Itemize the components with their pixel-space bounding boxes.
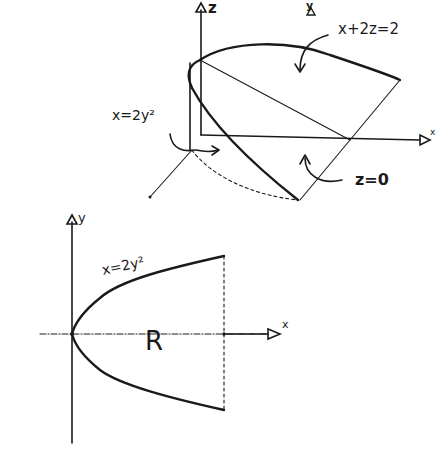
figure-3d: x+2z=2 x=2y² z=0 z y x: [112, 0, 436, 200]
parabola-label: x=2y²: [100, 253, 145, 278]
x-axis-2d-arrow-icon: [268, 329, 280, 339]
front-curve: [192, 88, 298, 200]
y-axis-label-3d: y: [306, 0, 313, 12]
x-axis-label-3d: x: [430, 127, 436, 137]
base-curve: [192, 150, 298, 200]
x-intercept-dot: [222, 332, 226, 336]
diagram-svg: x+2z=2 x=2y² z=0 z y x y: [0, 0, 446, 467]
plane-label: x+2z=2: [338, 20, 399, 38]
y-axis-end-dot: [149, 196, 152, 199]
base-label: z=0: [355, 170, 389, 189]
cylinder-pointer-arrow-2: [196, 150, 218, 152]
x-axis-arrow-icon: [420, 135, 430, 145]
figure-2d: y x x=2y² R: [40, 210, 289, 443]
y-axis: [150, 150, 192, 197]
plane-diagonal: [200, 60, 350, 140]
y-axis-label-2d: y: [78, 210, 86, 225]
x-axis-label-2d: x: [282, 318, 289, 331]
diagram-canvas: x+2z=2 x=2y² z=0 z y x y: [0, 0, 446, 467]
x-axis: [201, 135, 420, 140]
base-pointer-arrow: [305, 158, 342, 181]
cylinder-label: x=2y²: [112, 107, 155, 123]
region-label: R: [145, 326, 163, 356]
origin-dot: [70, 332, 74, 336]
cylinder-pointer-arrow: [170, 134, 195, 151]
z-axis-label: z: [208, 0, 217, 17]
